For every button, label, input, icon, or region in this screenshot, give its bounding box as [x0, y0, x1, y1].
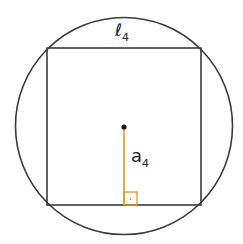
apothem-label: a4 — [131, 145, 149, 170]
inscribed-square-diagram: ℓ4 a4 — [0, 0, 243, 244]
side-label: ℓ4 — [114, 20, 129, 44]
right-angle-dot — [130, 198, 132, 200]
center-point — [121, 124, 126, 129]
apothem-subscript: 4 — [142, 157, 149, 170]
side-subscript: 4 — [122, 31, 129, 44]
